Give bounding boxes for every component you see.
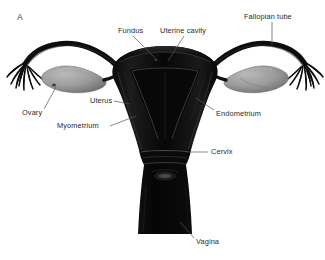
anatomy-diagram	[0, 0, 325, 260]
label-vagina: Vagina	[196, 238, 219, 245]
vagina	[138, 165, 192, 234]
label-ovary: Ovary	[22, 109, 42, 116]
cervix	[139, 150, 191, 165]
panel-letter: A	[17, 12, 23, 22]
label-cervix: Cervix	[211, 148, 233, 155]
label-uterine-cavity: Uterine cavity	[160, 27, 206, 34]
label-uterus: Uterus	[90, 97, 112, 104]
label-endometrium: Endometrium	[216, 110, 261, 117]
label-fallopian-tube: Fallopian tube	[244, 13, 292, 20]
label-myometrium: Myometrium	[57, 122, 99, 129]
label-fundus: Fundus	[118, 27, 143, 34]
